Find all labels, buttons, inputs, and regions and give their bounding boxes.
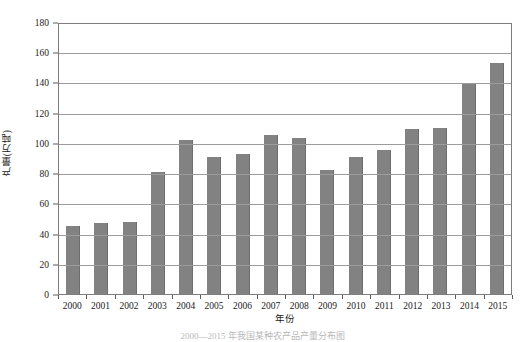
x-axis-tick-label: 2011 (370, 300, 398, 314)
bar-slot (313, 24, 341, 294)
x-axis-tick-mark (58, 295, 59, 299)
x-axis-tick-label: 2012 (399, 300, 427, 314)
x-axis-tick-label: 2006 (228, 300, 256, 314)
x-axis-tick-mark (86, 295, 87, 299)
x-axis-tick-mark (172, 295, 173, 299)
x-axis-tick-mark (143, 295, 144, 299)
bar-slot (370, 24, 398, 294)
gridline (59, 174, 511, 175)
x-axis-tick-label: 2007 (257, 300, 285, 314)
bar (490, 63, 504, 294)
x-axis-tick-mark (313, 295, 314, 299)
bar (66, 226, 80, 294)
bar-series (59, 24, 511, 294)
x-axis-tick-mark (257, 295, 258, 299)
x-axis-tick-label: 2014 (455, 300, 483, 314)
bar-slot (342, 24, 370, 294)
x-axis-title: 年份 (58, 313, 512, 325)
x-axis-tick-label: 2002 (115, 300, 143, 314)
x-axis-tick-label: 2003 (143, 300, 171, 314)
bar-slot (229, 24, 257, 294)
bar-slot (59, 24, 87, 294)
x-axis-tick-mark (455, 295, 456, 299)
x-axis-tick-label: 2013 (427, 300, 455, 314)
x-axis-tick-label: 2010 (342, 300, 370, 314)
y-axis-tick-label: 0 (44, 290, 49, 300)
x-axis-tick-mark (399, 295, 400, 299)
bar-slot (398, 24, 426, 294)
x-axis-tick-label: 2009 (313, 300, 341, 314)
bar-slot (144, 24, 172, 294)
x-axis-tick-mark (484, 295, 485, 299)
gridline (59, 53, 511, 54)
bar-slot (455, 24, 483, 294)
bar (349, 157, 363, 294)
bar-slot (483, 24, 511, 294)
x-axis-tick-mark (200, 295, 201, 299)
x-axis-tick-label: 2004 (172, 300, 200, 314)
x-axis-tick-labels: 2000200120022003200420052006200720082009… (58, 300, 512, 314)
y-axis-tick-label: 180 (35, 18, 49, 28)
x-axis-tick-mark (115, 295, 116, 299)
x-axis-tick-label: 2015 (484, 300, 512, 314)
x-axis-tick-mark (370, 295, 371, 299)
bar (320, 170, 334, 294)
bar (433, 128, 447, 294)
x-axis-tick-mark (427, 295, 428, 299)
gridline (59, 204, 511, 205)
y-axis-ticks: 020406080100120140160180 (0, 0, 58, 342)
x-axis-tick-mark (285, 295, 286, 299)
bar-slot (426, 24, 454, 294)
x-axis-tick-mark (342, 295, 343, 299)
y-axis-tick-label: 80 (40, 169, 50, 179)
figure-caption: 2000—2015 年我国某种农产品产量分布图 (0, 331, 525, 342)
bar (179, 140, 193, 294)
x-axis-tick-mark (228, 295, 229, 299)
gridline (59, 235, 511, 236)
bar (207, 157, 221, 295)
bar (292, 138, 306, 294)
bar-slot (87, 24, 115, 294)
bar-slot (200, 24, 228, 294)
bar-slot (257, 24, 285, 294)
y-axis-tick-label: 120 (35, 109, 49, 119)
bar (264, 135, 278, 294)
bar-slot (172, 24, 200, 294)
y-axis-tick-label: 140 (35, 78, 49, 88)
bar (377, 150, 391, 294)
plot-area (58, 23, 512, 295)
bar (405, 129, 419, 294)
gridline (59, 114, 511, 115)
y-axis-tick-label: 100 (35, 139, 49, 149)
bar (236, 154, 250, 294)
bar (462, 84, 476, 294)
gridline (59, 265, 511, 266)
bar (123, 222, 137, 294)
gridline (59, 144, 511, 145)
x-axis-tick-label: 2005 (200, 300, 228, 314)
x-axis-tick-label: 2008 (285, 300, 313, 314)
bar (151, 172, 165, 294)
x-axis-tick-label: 2000 (58, 300, 86, 314)
y-axis-tick-label: 40 (40, 230, 50, 240)
bar-slot (285, 24, 313, 294)
bar-slot (116, 24, 144, 294)
bar-chart-figure: 产量(万吨) 020406080100120140160180 20002001… (0, 0, 525, 342)
y-axis-tick-label: 20 (40, 260, 50, 270)
y-axis-tick-label: 160 (35, 48, 49, 58)
y-axis-tick-label: 60 (40, 199, 50, 209)
x-axis-tick-label: 2001 (86, 300, 114, 314)
gridline (59, 83, 511, 84)
x-axis-tick-mark (512, 295, 513, 299)
